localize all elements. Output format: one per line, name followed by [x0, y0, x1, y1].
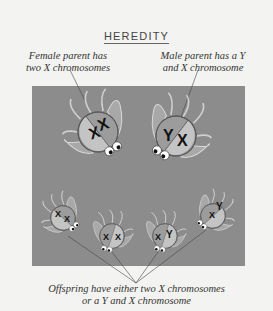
offspring-4-chromosome-1: Y — [216, 201, 223, 212]
offspring-label-line1: Offspring have either two X chromosomes — [20, 283, 253, 295]
offspring-3-chromosome-1: X — [155, 232, 161, 242]
male-chromosome-2: X — [177, 132, 188, 149]
heredity-illustration: X X Y X X X X X X Y Y X — [0, 0, 273, 311]
offspring-2-chromosome-2: X — [115, 232, 121, 242]
offspring-1-chromosome-2: X — [64, 214, 70, 224]
background-panel — [32, 86, 245, 266]
male-chromosome-1: Y — [163, 127, 174, 144]
offspring-3-chromosome-2: Y — [166, 229, 173, 240]
offspring-4-chromosome-2: X — [209, 210, 215, 220]
offspring-1-chromosome-1: X — [55, 209, 61, 219]
offspring-label: Offspring have either two X chromosomes … — [20, 283, 253, 307]
offspring-label-line2: or a Y and X chromosome — [20, 295, 253, 307]
offspring-2-chromosome-1: X — [103, 232, 109, 242]
